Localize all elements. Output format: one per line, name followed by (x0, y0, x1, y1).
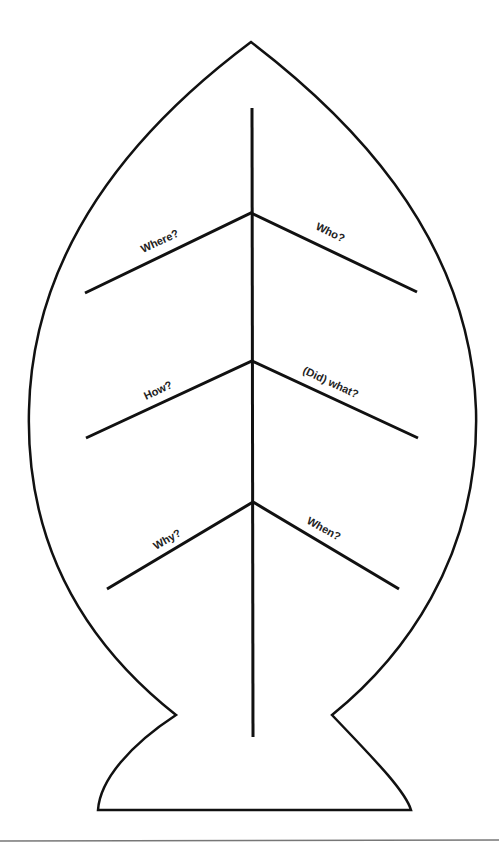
label-who: Who? (314, 220, 347, 244)
page-divider (0, 840, 499, 841)
fishbone-diagram: Where? Who? How? (Did) what? Why? When? (0, 0, 499, 847)
label-when: When? (305, 514, 343, 542)
spine-line (252, 108, 253, 737)
label-did-what: (Did) what? (301, 364, 361, 400)
